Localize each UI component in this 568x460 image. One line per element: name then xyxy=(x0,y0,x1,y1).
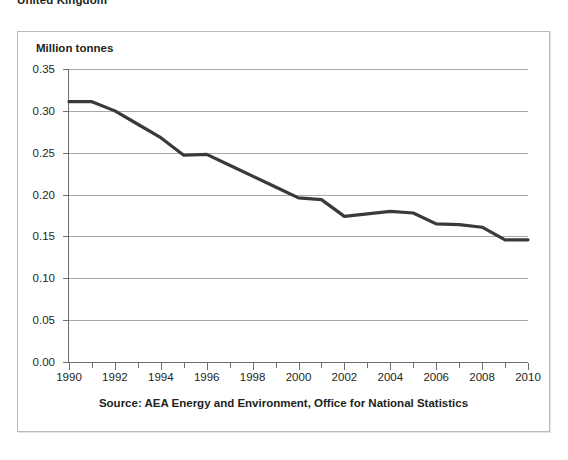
x-tick-mark-major xyxy=(69,363,70,370)
x-tick-mark-major xyxy=(115,363,116,370)
y-tick-label: 0.35 xyxy=(33,63,55,75)
x-tick-label: 2006 xyxy=(423,371,449,383)
x-tick-mark-major xyxy=(344,363,345,370)
x-tick-label: 2004 xyxy=(378,371,404,383)
x-tick-mark-major xyxy=(482,363,483,370)
plot-area xyxy=(69,69,528,362)
x-tick-mark-minor xyxy=(92,363,93,368)
x-tick-label: 1992 xyxy=(102,371,128,383)
y-tick-label: 0.00 xyxy=(33,356,55,368)
x-tick-mark-major xyxy=(390,363,391,370)
x-tick-mark-minor xyxy=(321,363,322,368)
x-tick-mark-minor xyxy=(459,363,460,368)
x-tick-mark-major xyxy=(528,363,529,370)
x-tick-label: 2000 xyxy=(286,371,312,383)
y-tick-label: 0.25 xyxy=(33,147,55,159)
x-tick-mark-minor xyxy=(413,363,414,368)
x-tick-label: 2010 xyxy=(515,371,541,383)
x-tick-mark-major xyxy=(253,363,254,370)
page-title: United Kingdom xyxy=(17,0,107,6)
x-tick-mark-minor xyxy=(184,363,185,368)
x-tick-label: 1996 xyxy=(194,371,220,383)
y-tick-label: 0.15 xyxy=(33,230,55,242)
y-tick-label: 0.20 xyxy=(33,189,55,201)
x-tick-mark-major xyxy=(161,363,162,370)
x-tick-mark-major xyxy=(436,363,437,370)
y-tick-label: 0.30 xyxy=(33,105,55,117)
x-tick-label: 2008 xyxy=(469,371,495,383)
x-tick-mark-minor xyxy=(230,363,231,368)
x-tick-label: 1990 xyxy=(56,371,82,383)
source-note: Source: AEA Energy and Environment, Offi… xyxy=(18,397,549,409)
x-tick-mark-minor xyxy=(138,363,139,368)
y-axis-title: Million tonnes xyxy=(36,42,113,54)
x-tick-mark-minor xyxy=(276,363,277,368)
x-tick-label: 1994 xyxy=(148,371,174,383)
x-tick-mark-major xyxy=(207,363,208,370)
x-tick-label: 1998 xyxy=(240,371,266,383)
chart-frame: Million tonnes 0.350.300.250.200.150.100… xyxy=(17,31,550,432)
series-line-chart xyxy=(69,69,528,362)
series-polyline xyxy=(69,102,528,240)
x-tick-mark-major xyxy=(299,363,300,370)
x-tick-label: 2002 xyxy=(332,371,358,383)
y-tick-label: 0.10 xyxy=(33,272,55,284)
y-tick-label: 0.05 xyxy=(33,314,55,326)
x-tick-mark-minor xyxy=(505,363,506,368)
x-tick-mark-minor xyxy=(367,363,368,368)
